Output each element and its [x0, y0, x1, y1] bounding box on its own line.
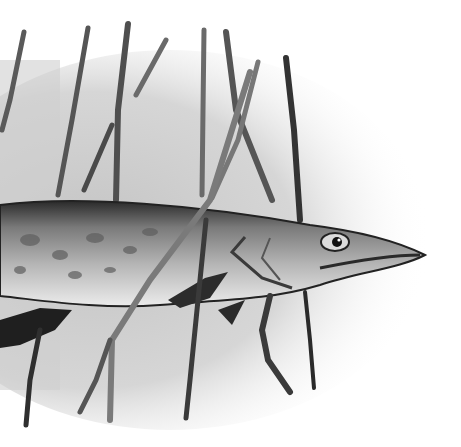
pike-illustration: [0, 0, 461, 447]
eye-icon: [321, 233, 349, 251]
